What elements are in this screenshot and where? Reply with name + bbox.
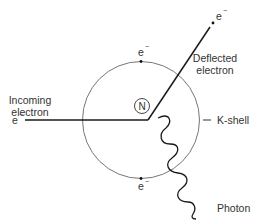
electron-symbol-incoming: e − xyxy=(12,111,23,126)
svg-text:e: e xyxy=(12,114,18,126)
svg-text:−: − xyxy=(145,178,149,185)
deflected-electron-dot xyxy=(212,22,215,25)
electron-symbol-top: e − xyxy=(138,43,149,58)
nucleus: N xyxy=(135,99,150,114)
k-shell-label: K-shell xyxy=(217,114,249,126)
bremsstrahlung-diagram: N Incoming electron Deflected electron K… xyxy=(0,0,261,220)
svg-text:−: − xyxy=(223,7,227,14)
svg-text:e: e xyxy=(216,10,222,22)
incoming-label-line1: Incoming xyxy=(9,94,52,106)
nucleus-label: N xyxy=(138,101,145,112)
svg-text:−: − xyxy=(19,111,23,118)
orbital-electron-top-dot xyxy=(140,60,143,63)
photon-label: Photon xyxy=(217,202,250,214)
deflected-label-line1: Deflected xyxy=(193,52,238,64)
deflected-label-line2: electron xyxy=(196,64,234,76)
svg-text:−: − xyxy=(145,43,149,50)
svg-text:e: e xyxy=(138,180,144,192)
photon-wave xyxy=(158,116,196,219)
electron-symbol-bottom: e − xyxy=(138,178,149,192)
svg-text:e: e xyxy=(138,46,144,58)
electron-symbol-deflected: e − xyxy=(216,7,227,22)
